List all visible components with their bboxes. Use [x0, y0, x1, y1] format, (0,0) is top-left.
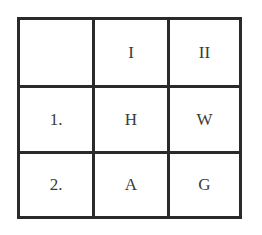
cell-2-II: G [170, 154, 239, 216]
cell-2-I: A [95, 154, 170, 216]
row-label-2: 2. [20, 154, 95, 216]
header-corner-cell [20, 20, 95, 88]
header-cell-I: I [95, 20, 170, 88]
row-label-1: 1. [20, 88, 95, 154]
cell-1-II: W [170, 88, 239, 154]
grid-table: I II 1. H W 2. A G [17, 17, 242, 219]
header-cell-II: II [170, 20, 239, 88]
cell-1-I: H [95, 88, 170, 154]
